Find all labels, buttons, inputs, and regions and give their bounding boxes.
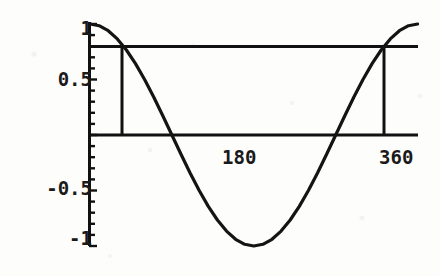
y-axis-label-1: 1 xyxy=(81,19,92,38)
y-axis-label-negative-1: -1 xyxy=(69,229,92,248)
y-axis-label-negative-0.5: -0.5 xyxy=(46,179,92,198)
x-axis-label-180: 180 xyxy=(222,148,256,167)
y-axis-label-0.5: 0.5 xyxy=(58,70,92,89)
plot-canvas xyxy=(0,0,440,276)
x-axis-label-360: 360 xyxy=(379,148,413,167)
cosine-plot-figure: 1 0.5 -0.5 -1 180 360 xyxy=(0,0,440,276)
